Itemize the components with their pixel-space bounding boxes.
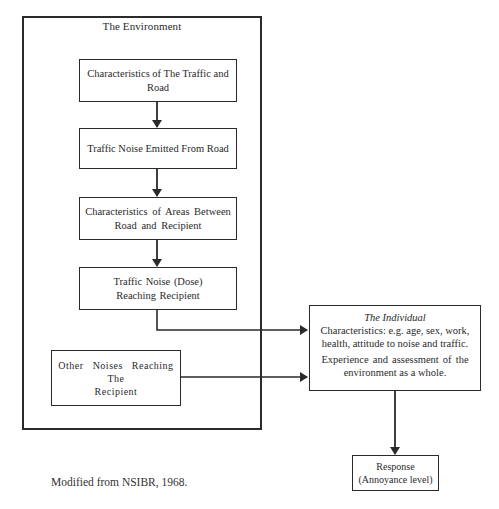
environment-label: The Environment xyxy=(22,20,262,32)
individual-characteristics-line: Characteristics: e.g. age, sex, work, xyxy=(321,324,470,337)
node-traffic-noise-dose: Traffic Noise (Dose) Reaching Recipient xyxy=(79,267,237,310)
individual-title: The Individual xyxy=(364,311,426,324)
individual-experience-line: Experience and assessment of the xyxy=(321,353,468,366)
source-caption: Modified from NSIBR, 1968. xyxy=(51,476,187,488)
node-text-line: Recipient xyxy=(58,385,173,398)
node-text-line: Traffic Noise (Dose) xyxy=(114,275,203,289)
individual-characteristics-line: health, attitude to noise and traffic. xyxy=(322,337,468,350)
node-text-line: Response xyxy=(358,460,432,473)
node-text-line: Characteristics of Areas Between xyxy=(85,205,231,219)
node-the-individual: The Individual Characteristics: e.g. age… xyxy=(309,305,481,391)
node-text-line: Road xyxy=(87,81,228,95)
node-text-line: Traffic Noise Emitted From Road xyxy=(87,142,229,156)
node-text-line: Reaching Recipient xyxy=(114,289,203,303)
node-traffic-road-characteristics: Characteristics of The Traffic and Road xyxy=(79,59,237,102)
node-text-line: Road and Recipient xyxy=(85,219,231,233)
node-other-noises: Other Noises Reaching The Recipient xyxy=(51,350,181,406)
node-areas-between-road-recipient: Characteristics of Areas Between Road an… xyxy=(79,197,237,240)
node-response: Response (Annoyance level) xyxy=(352,455,439,491)
node-text-line: Characteristics of The Traffic and xyxy=(87,67,228,81)
node-text-line: Other Noises Reaching xyxy=(58,359,173,372)
node-text-line: (Annoyance level) xyxy=(358,473,432,486)
individual-experience-line: environment as a whole. xyxy=(344,366,447,379)
node-text-line: The xyxy=(58,372,173,385)
node-traffic-noise-emitted: Traffic Noise Emitted From Road xyxy=(79,128,237,169)
